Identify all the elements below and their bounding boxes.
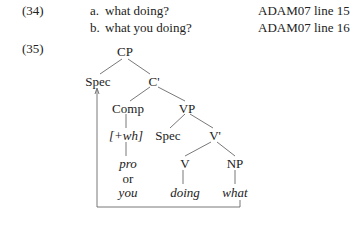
node-comp: Comp (112, 102, 144, 115)
word-you: you (119, 186, 138, 199)
word-pro: pro (119, 157, 137, 170)
node-wh-feature: [+wh] (109, 129, 143, 142)
node-spec-cp: Spec (85, 75, 110, 88)
node-spec-vp: Spec (155, 129, 180, 142)
word-doing: doing (170, 186, 200, 199)
word-or: or (123, 172, 134, 185)
node-vp: VP (179, 102, 196, 115)
node-c-bar: C' (148, 75, 159, 88)
word-what: what (222, 186, 247, 199)
node-np: NP (227, 157, 244, 170)
node-cp: CP (117, 45, 133, 58)
node-v: V (180, 157, 189, 170)
node-v-bar: V' (209, 129, 221, 142)
